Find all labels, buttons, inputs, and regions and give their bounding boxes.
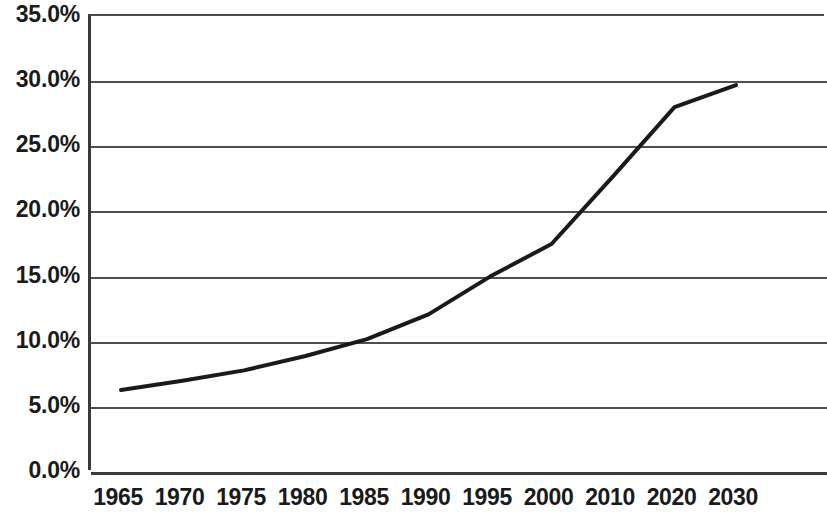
line-series-svg xyxy=(91,16,827,472)
y-axis-tick-label: 30.0% xyxy=(0,68,80,91)
plot-area xyxy=(88,14,824,470)
y-axis-tick-label: 5.0% xyxy=(0,394,80,417)
line-series-path xyxy=(121,85,736,390)
y-axis-tick-label: 25.0% xyxy=(0,133,80,156)
x-axis-tick-label: 2030 xyxy=(693,486,773,509)
x-axis: 1965197019751980198519901995200020102020… xyxy=(0,486,824,520)
y-axis: 0.0%5.0%10.0%15.0%20.0%25.0%30.0%35.0% xyxy=(0,0,80,520)
y-axis-tick-label: 10.0% xyxy=(0,329,80,352)
y-axis-tick-label: 0.0% xyxy=(0,459,80,482)
y-axis-tick-label: 20.0% xyxy=(0,198,80,221)
y-axis-tick-label: 15.0% xyxy=(0,264,80,287)
gridline xyxy=(91,472,827,475)
y-axis-tick-label: 35.0% xyxy=(0,3,80,26)
